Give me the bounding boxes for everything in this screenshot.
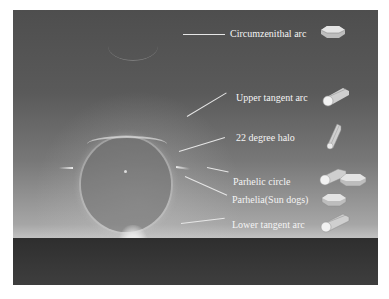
column-and-plate-crystals-icon xyxy=(318,165,370,191)
leader-line-circumzenithal xyxy=(183,34,225,35)
plate-crystal-icon xyxy=(320,192,348,208)
column-crystal-icon xyxy=(321,86,351,108)
label-circumzenithal-arc: Circumzenithal arc xyxy=(230,28,306,40)
label-upper-tangent-arc: Upper tangent arc xyxy=(236,92,308,104)
label-parhelia: Parhelia(Sun dogs) xyxy=(232,194,308,206)
label-22-degree-halo: 22 degree halo xyxy=(236,132,295,144)
22-degree-halo xyxy=(81,137,171,232)
circumzenithal-arc xyxy=(108,46,158,61)
tilted-column-crystal-icon xyxy=(325,122,343,150)
halo-diagram: Circumzenithal arc Upper tangent arc 22 … xyxy=(13,10,378,285)
plate-crystal-icon xyxy=(319,24,347,40)
sun-dog-left xyxy=(59,167,73,169)
label-lower-tangent-arc: Lower tangent arc xyxy=(232,219,305,231)
column-crystal-icon xyxy=(319,212,351,234)
sun xyxy=(124,170,127,173)
label-parhelic-circle: Parhelic circle xyxy=(233,176,290,188)
ground xyxy=(13,238,378,285)
